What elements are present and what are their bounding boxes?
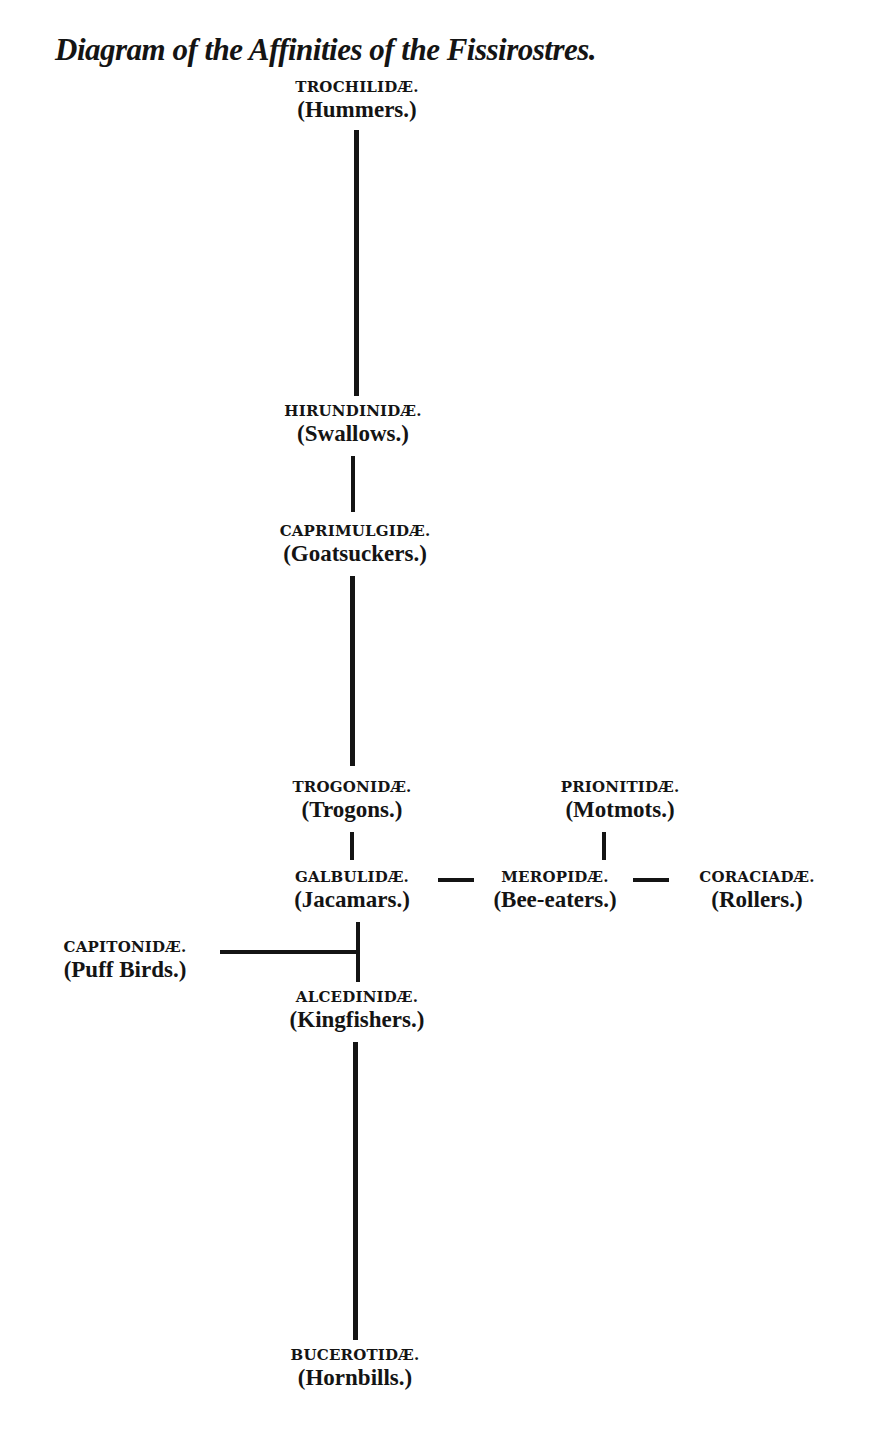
common-name: (Swallows.): [284, 420, 421, 447]
common-name: (Goatsuckers.): [280, 540, 431, 567]
edge-caprimulgidae-trogonidae: [350, 576, 355, 766]
family-name: MEROPIDÆ.: [493, 868, 616, 886]
node-capitonidae: CAPITONIDÆ. (Puff Birds.): [64, 938, 187, 983]
edge-trogonidae-galbulidae: [350, 832, 354, 860]
edge-hirundinidae-caprimulgidae: [351, 456, 355, 512]
common-name: (Puff Birds.): [64, 956, 187, 983]
family-name: GALBULIDÆ.: [294, 868, 410, 886]
family-name: ALCEDINIDÆ.: [290, 988, 425, 1006]
common-name: (Rollers.): [699, 886, 814, 913]
common-name: (Jacamars.): [294, 886, 410, 913]
common-name: (Kingfishers.): [290, 1006, 425, 1033]
family-name: BUCEROTIDÆ.: [291, 1346, 420, 1364]
edge-capitonidae-link: [220, 950, 358, 954]
family-name: PRIONITIDÆ.: [561, 778, 680, 796]
common-name: (Trogons.): [292, 796, 411, 823]
common-name: (Motmots.): [561, 796, 680, 823]
family-name: CAPRIMULGIDÆ.: [280, 522, 431, 540]
edge-meropidae-coraciadae: [633, 878, 669, 882]
edge-trochilidae-hirundinidae: [354, 130, 359, 396]
family-name: CORACIADÆ.: [699, 868, 814, 886]
common-name: (Bee-eaters.): [493, 886, 616, 913]
edge-prionitidae-meropidae: [602, 832, 606, 860]
node-coraciadae: CORACIADÆ. (Rollers.): [699, 868, 814, 913]
node-alcedinidae: ALCEDINIDÆ. (Kingfishers.): [290, 988, 425, 1033]
node-galbulidae: GALBULIDÆ. (Jacamars.): [294, 868, 410, 913]
family-name: TROGONIDÆ.: [292, 778, 411, 796]
node-meropidae: MEROPIDÆ. (Bee-eaters.): [493, 868, 616, 913]
family-name: CAPITONIDÆ.: [64, 938, 187, 956]
node-trochilidae: TROCHILIDÆ. (Hummers.): [295, 78, 418, 123]
common-name: (Hornbills.): [291, 1364, 420, 1391]
edge-alcedinidae-bucerotidae: [353, 1042, 358, 1340]
diagram-title: Diagram of the Affinities of the Fissiro…: [55, 32, 596, 68]
edge-galbulidae-meropidae: [438, 878, 474, 882]
common-name: (Hummers.): [295, 96, 418, 123]
family-name: HIRUNDINIDÆ.: [284, 402, 421, 420]
node-trogonidae: TROGONIDÆ. (Trogons.): [292, 778, 411, 823]
family-name: TROCHILIDÆ.: [295, 78, 418, 96]
node-bucerotidae: BUCEROTIDÆ. (Hornbills.): [291, 1346, 420, 1391]
node-prionitidae: PRIONITIDÆ. (Motmots.): [561, 778, 680, 823]
node-hirundinidae: HIRUNDINIDÆ. (Swallows.): [284, 402, 421, 447]
node-caprimulgidae: CAPRIMULGIDÆ. (Goatsuckers.): [280, 522, 431, 567]
